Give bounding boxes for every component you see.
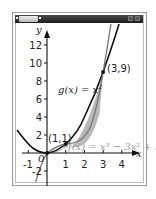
chart-canvas: y x 12 10 8 6 4 2 -2 0 -1 1 2 3 4 (1,1) …: [0, 0, 156, 199]
point-3-9: [101, 70, 105, 74]
y-tick-10: 10: [29, 58, 42, 69]
point-label-3-9: (3,9): [107, 63, 131, 74]
f-function-label: f(x) = x³ − 3x² + 3x: [67, 141, 156, 152]
y-tick-4: 4: [36, 112, 42, 123]
y-axis-label: y: [35, 24, 42, 35]
x-tick-3: 3: [100, 159, 106, 170]
y-tick-12: 12: [29, 40, 42, 51]
g-function-label: g(x) = x2: [58, 83, 102, 95]
x-tick-2: 2: [81, 159, 87, 170]
y-axis-arrow-icon: [44, 30, 50, 38]
x-tick-4: 4: [119, 159, 125, 170]
y-tick-2: 2: [36, 130, 42, 141]
x-tick-1: 1: [63, 159, 69, 170]
y-tick-8: 8: [36, 76, 42, 87]
origin-label: 0: [38, 153, 45, 164]
x-tick-neg1: -1: [23, 159, 33, 170]
y-tick-6: 6: [36, 94, 42, 105]
point-origin: [45, 151, 49, 155]
y-tick-neg2: -2: [32, 166, 42, 177]
